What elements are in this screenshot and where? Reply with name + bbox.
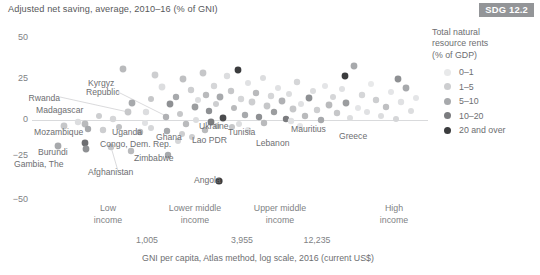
data-point xyxy=(195,97,201,103)
data-point xyxy=(383,104,389,110)
data-point xyxy=(188,87,194,93)
legend-item[interactable]: 0–1 xyxy=(432,65,536,80)
data-point xyxy=(200,70,207,77)
data-point xyxy=(395,76,402,83)
legend: Total natural resource rents (% of GDP) … xyxy=(432,27,536,137)
data-point xyxy=(334,110,340,116)
legend-title-line1: Total natural xyxy=(432,27,536,38)
country-label: Afghanistan xyxy=(88,167,133,177)
legend-item[interactable]: 10–20 xyxy=(432,108,536,123)
data-point xyxy=(180,76,187,83)
country-label: Lebanon xyxy=(256,138,289,148)
data-point xyxy=(148,125,154,131)
data-point xyxy=(388,89,394,95)
legend-title-line2: resource rents xyxy=(432,38,536,49)
income-group-line2: income xyxy=(169,215,221,227)
data-point xyxy=(100,127,106,133)
data-point xyxy=(206,108,212,114)
country-label: Congo, Dem. Rep. xyxy=(100,139,171,149)
data-point xyxy=(148,96,154,102)
data-point xyxy=(173,94,179,100)
data-point xyxy=(242,112,248,118)
legend-item[interactable]: 20 and over xyxy=(432,123,536,138)
income-group-line1: Lower middle xyxy=(169,203,221,215)
data-point xyxy=(310,88,316,94)
legend-swatch-dot-icon xyxy=(444,69,451,76)
income-group-line2: income xyxy=(380,215,408,227)
data-point xyxy=(268,93,274,99)
legend-item-label: 0–1 xyxy=(459,67,474,77)
data-point xyxy=(83,146,90,153)
data-point xyxy=(110,116,116,122)
data-point xyxy=(330,94,336,100)
country-label: Mauritius xyxy=(291,124,326,134)
chart-figure: Adjusted net saving, average, 2010–16 (%… xyxy=(0,0,540,275)
data-point xyxy=(364,109,370,115)
country-label: Tunisia xyxy=(228,127,255,137)
data-point xyxy=(245,80,251,86)
data-point xyxy=(393,116,399,122)
x-axis-boundary-value: 1,005 xyxy=(136,235,158,245)
data-point xyxy=(249,99,256,106)
income-group-line1: Upper middle xyxy=(254,203,306,215)
data-point xyxy=(403,85,410,92)
data-point xyxy=(359,92,365,98)
data-point xyxy=(177,111,183,117)
legend-item[interactable]: 1–5 xyxy=(432,79,536,94)
data-point xyxy=(235,67,242,74)
data-point xyxy=(129,100,136,107)
data-point xyxy=(120,66,127,73)
income-group-line1: High xyxy=(380,203,408,215)
country-label: Mozambique xyxy=(34,127,83,137)
legend-swatch-dot-icon xyxy=(444,98,451,105)
data-point xyxy=(342,73,349,80)
income-group-label: Upper middleincome xyxy=(254,203,306,226)
data-point xyxy=(298,101,304,107)
data-point xyxy=(279,98,286,105)
data-point xyxy=(159,84,166,91)
data-point xyxy=(261,120,267,126)
legend-item[interactable]: 5–10 xyxy=(432,94,536,109)
data-point xyxy=(231,105,237,111)
data-point xyxy=(290,106,297,113)
legend-item-label: 5–10 xyxy=(459,96,479,106)
x-axis-boundary-value: 3,955 xyxy=(231,235,253,245)
data-point xyxy=(271,109,277,115)
x-axis-title: GNI per capita, Atlas method, log scale,… xyxy=(142,253,374,263)
data-point xyxy=(306,95,313,102)
data-point xyxy=(378,113,384,119)
data-point xyxy=(373,97,379,103)
country-label: Burundi xyxy=(38,147,68,157)
country-label: Greece xyxy=(339,131,367,141)
data-point xyxy=(275,85,281,91)
legend-items: 0–11–55–1010–2020 and over xyxy=(432,65,536,138)
country-label: Zimbabwe xyxy=(134,153,174,163)
data-point xyxy=(355,105,361,111)
country-label: Ukraine xyxy=(199,121,229,131)
income-group-label: Lower middleincome xyxy=(169,203,221,226)
income-group-line2: income xyxy=(94,215,122,227)
data-point xyxy=(152,72,159,79)
y-axis-tick-label: 50 xyxy=(4,32,28,42)
data-point xyxy=(211,83,217,89)
data-point xyxy=(322,83,328,89)
annotation-leader-line xyxy=(116,91,166,116)
data-point xyxy=(351,63,358,70)
data-point xyxy=(142,120,148,126)
data-point xyxy=(253,90,259,96)
y-axis-tick-label: −50 xyxy=(4,194,28,204)
x-axis-boundary-value: 12,235 xyxy=(304,235,331,245)
data-point xyxy=(183,121,189,127)
data-point xyxy=(85,126,91,132)
data-point xyxy=(75,119,81,125)
data-point xyxy=(347,115,353,121)
income-group-label: Highincome xyxy=(380,203,408,226)
data-point xyxy=(326,102,333,109)
income-group-line2: income xyxy=(254,215,306,227)
country-label: Madagascar xyxy=(36,105,83,115)
legend-item-label: 1–5 xyxy=(459,82,474,92)
data-point xyxy=(413,95,419,101)
data-point xyxy=(224,73,230,79)
data-point xyxy=(408,108,414,114)
legend-swatch-dot-icon xyxy=(444,83,451,90)
